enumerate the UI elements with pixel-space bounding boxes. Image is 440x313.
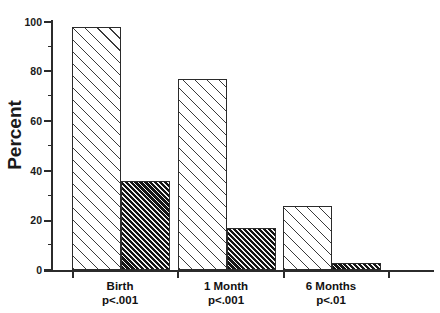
group-pvalue-6months: p<.01 [281, 294, 381, 308]
x-axis-group-6months: 6 Months p<.01 [281, 280, 381, 307]
group-pvalue-birth: p<.001 [70, 294, 170, 308]
bar-1month-light [178, 79, 227, 270]
y-axis-tick-labels: 100 80 60 40 20 0 [0, 0, 42, 313]
x-axis-group-1month: 1 Month p<.001 [176, 280, 276, 307]
y-tick-label-60: 60 [2, 116, 42, 127]
y-tick-label-0: 0 [2, 265, 42, 276]
bar-6months-dark [332, 263, 381, 270]
group-name-6months: 6 Months [281, 280, 381, 294]
bar-chart-figure: Percent 100 80 60 40 20 0 Bi [0, 0, 440, 313]
y-tick-label-40: 40 [2, 166, 42, 177]
y-tick-label-20: 20 [2, 215, 42, 226]
bar-6months-light [283, 206, 332, 270]
bar-1month-dark [227, 228, 276, 270]
bar-birth-dark [121, 181, 170, 270]
x-tick-2 [283, 271, 285, 278]
group-name-1month: 1 Month [176, 280, 276, 294]
group-name-birth: Birth [70, 280, 170, 294]
plot-area [52, 22, 430, 270]
x-tick-3 [388, 271, 390, 278]
x-axis-group-birth: Birth p<.001 [70, 280, 170, 307]
y-tick-label-80: 80 [2, 66, 42, 77]
y-tick-label-100: 100 [2, 17, 42, 28]
x-tick-1 [177, 271, 179, 278]
x-axis-line [44, 270, 434, 272]
x-tick-0 [72, 271, 74, 278]
bar-birth-light [72, 27, 121, 270]
group-pvalue-1month: p<.001 [176, 294, 276, 308]
